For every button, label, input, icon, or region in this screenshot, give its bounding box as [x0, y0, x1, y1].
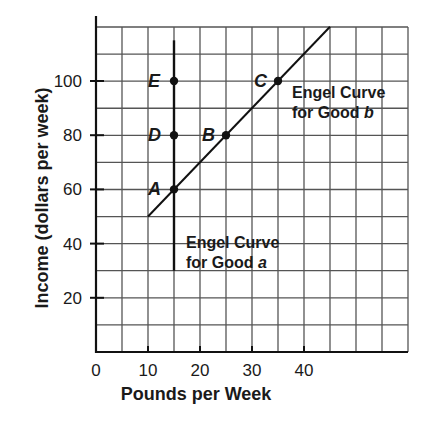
point-label-e: E [148, 71, 161, 91]
grid [96, 27, 408, 352]
point-label-c: C [254, 71, 268, 91]
annotation-good-b-line1: Engel Curve [292, 84, 385, 101]
annotation-good-a-line2: for Good a [186, 254, 267, 271]
point-c [274, 77, 282, 85]
point-a [170, 185, 178, 193]
x-axis-label: Pounds per Week [121, 384, 273, 404]
point-label-d: D [148, 125, 161, 145]
engel-curve-chart: 20406080100 010203040 ABCDE Engel Curve … [0, 0, 432, 429]
annotation-good-b-line2: for Good b [292, 104, 374, 121]
y-tick-labels: 20406080100 [54, 72, 82, 308]
x-tick-label: 0 [91, 361, 100, 380]
y-tick-label: 80 [63, 126, 82, 145]
point-label-a: A [147, 179, 161, 199]
point-label-b: B [202, 125, 215, 145]
point-b [222, 131, 230, 139]
y-tick-label: 20 [63, 289, 82, 308]
annotation-good-a-line1: Engel Curve [186, 234, 279, 251]
x-tick-labels: 010203040 [91, 361, 313, 380]
y-tick-label: 60 [63, 180, 82, 199]
point-d [170, 131, 178, 139]
x-tick-label: 20 [191, 361, 210, 380]
x-tick-label: 40 [295, 361, 314, 380]
point-e [170, 77, 178, 85]
x-tick-label: 10 [139, 361, 158, 380]
y-tick-label: 100 [54, 72, 82, 91]
x-tick-label: 30 [243, 361, 262, 380]
y-tick-label: 40 [63, 235, 82, 254]
y-axis-label: Income (dollars per week) [32, 87, 52, 308]
